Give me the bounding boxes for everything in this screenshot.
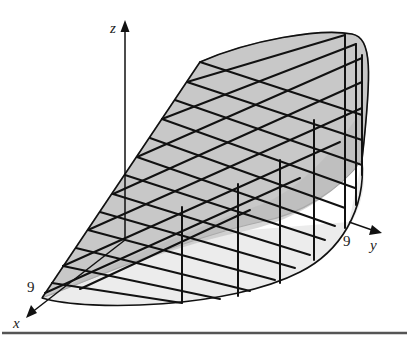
z-arrow-icon bbox=[121, 20, 130, 32]
z-axis-label: z bbox=[109, 20, 116, 36]
y-axis-label: y bbox=[368, 237, 377, 253]
x-tick-9: 9 bbox=[27, 279, 35, 295]
y-tick-9: 9 bbox=[343, 233, 351, 249]
y-axis bbox=[349, 222, 382, 235]
wedge-diagram: z x y 9 9 bbox=[0, 0, 409, 346]
x-axis-label: x bbox=[12, 315, 20, 331]
x-arrow-icon bbox=[26, 305, 37, 318]
y-arrow-icon bbox=[369, 225, 382, 235]
